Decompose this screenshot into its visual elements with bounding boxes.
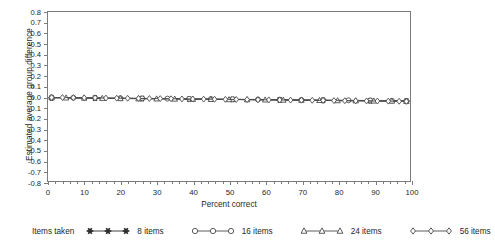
x-tick-minor (99, 181, 100, 184)
x-tick-major (303, 181, 304, 185)
x-tick-minor (92, 181, 93, 184)
marker-diamond (201, 96, 206, 102)
x-tick-major (194, 181, 195, 185)
y-tick-label: 0.2 (30, 72, 41, 81)
x-tick-major (266, 181, 267, 185)
y-tick-label: -0.8 (28, 179, 41, 188)
y-tick-label: -0.1 (28, 104, 41, 113)
y-tick-label: 0.6 (30, 29, 41, 38)
x-tick-minor (106, 181, 107, 184)
x-tick-minor (70, 181, 71, 184)
x-axis-title: Percent correct (47, 200, 411, 209)
legend-swatch-triangle (299, 225, 345, 237)
legend-label: 16 items (242, 227, 273, 236)
plot-area (48, 12, 410, 181)
x-tick-label: 70 (298, 188, 307, 197)
y-tick-label: -0.4 (28, 136, 41, 145)
x-tick-minor (77, 181, 78, 184)
x-tick-minor (186, 181, 187, 184)
legend-item-24-items[interactable]: 24 items (299, 225, 382, 237)
legend-item-8-items[interactable]: 8 items (85, 225, 163, 237)
y-tick-label: -0.5 (28, 146, 41, 155)
x-tick-label: 100 (405, 188, 418, 197)
x-tick-major (84, 181, 85, 185)
y-tick-label: 0.3 (30, 61, 41, 70)
chart-legend: Items taken 8 items16 items24 items56 it… (32, 222, 495, 240)
legend-swatch-star (85, 225, 131, 237)
legend-label: 56 items (460, 227, 491, 236)
x-tick-label: 80 (335, 188, 344, 197)
x-tick-label: 90 (371, 188, 380, 197)
marker-diamond (428, 228, 433, 234)
legend-label: 24 items (351, 227, 382, 236)
marker-diamond (310, 97, 315, 103)
x-tick-minor (208, 181, 209, 184)
x-tick-major (157, 181, 158, 185)
y-tick-label: 0.8 (30, 8, 41, 17)
plot-frame: 0.80.70.60.50.40.30.20.10.0-0.1-0.2-0.3-… (47, 11, 411, 182)
x-tick-minor (296, 181, 297, 184)
x-tick-minor (390, 181, 391, 184)
x-tick-label: 20 (116, 188, 125, 197)
x-tick-minor (252, 181, 253, 184)
x-tick-label: 10 (80, 188, 89, 197)
marker-circle (192, 228, 197, 233)
x-tick-minor (397, 181, 398, 184)
marker-diamond (397, 98, 402, 104)
x-tick-minor (172, 181, 173, 184)
x-tick-minor (354, 181, 355, 184)
y-tick-label: -0.7 (28, 168, 41, 177)
x-tick-major (121, 181, 122, 185)
marker-star (87, 228, 94, 234)
x-tick-minor (135, 181, 136, 184)
legend-title: Items taken (32, 227, 74, 236)
x-tick-major (412, 181, 413, 185)
x-tick-minor (114, 181, 115, 184)
x-tick-minor (164, 181, 165, 184)
y-tick-label: 0.5 (30, 40, 41, 49)
x-tick-minor (383, 181, 384, 184)
x-tick-minor (346, 181, 347, 184)
x-tick-minor (259, 181, 260, 184)
y-tick-label: 0.1 (30, 82, 41, 91)
legend-item-56-items[interactable]: 56 items (408, 225, 491, 237)
x-tick-minor (201, 181, 202, 184)
x-tick-label: 40 (189, 188, 198, 197)
legend-entries: 8 items16 items24 items56 items (85, 225, 495, 237)
x-tick-minor (55, 181, 56, 184)
legend-item-16-items[interactable]: 16 items (190, 225, 273, 237)
x-tick-minor (245, 181, 246, 184)
marker-circle (210, 228, 215, 233)
x-tick-label: 30 (153, 188, 162, 197)
x-tick-minor (317, 181, 318, 184)
marker-diamond (125, 95, 130, 101)
y-tick-label: 0.7 (30, 18, 41, 27)
x-tick-minor (223, 181, 224, 184)
marker-star (105, 228, 112, 234)
x-tick-minor (150, 181, 151, 184)
x-tick-minor (63, 181, 64, 184)
marker-diamond (147, 96, 152, 102)
y-tick-label: 0.4 (30, 50, 41, 59)
x-tick-label: 0 (46, 188, 50, 197)
x-tick-minor (274, 181, 275, 184)
y-tick-label: -0.3 (28, 125, 41, 134)
x-tick-minor (143, 181, 144, 184)
series-layer (48, 12, 410, 181)
legend-swatch-circle (190, 225, 236, 237)
x-tick-major (230, 181, 231, 185)
legend-swatch-diamond (408, 225, 454, 237)
x-tick-minor (128, 181, 129, 184)
y-tick-label: 0.0 (30, 93, 41, 102)
x-tick-minor (325, 181, 326, 184)
marker-diamond (288, 97, 293, 103)
x-tick-major (376, 181, 377, 185)
y-tick-label: -0.6 (28, 157, 41, 166)
x-tick-minor (405, 181, 406, 184)
x-tick-major (48, 181, 49, 185)
x-tick-minor (288, 181, 289, 184)
marker-diamond (446, 228, 451, 234)
x-tick-major (339, 181, 340, 185)
x-tick-label: 60 (262, 188, 271, 197)
